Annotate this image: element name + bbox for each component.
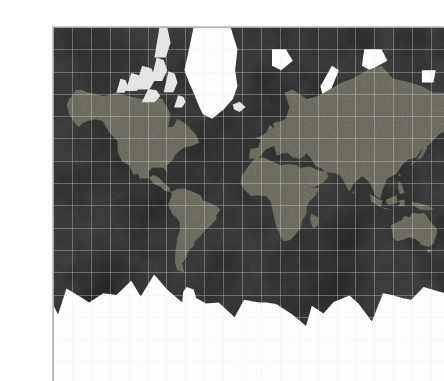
world-map[interactable]: Grayscale satellite composite world map … — [53, 27, 444, 381]
page-root: Grayscale satellite composite world map … — [0, 0, 444, 381]
world-map-raster[interactable] — [53, 27, 444, 381]
